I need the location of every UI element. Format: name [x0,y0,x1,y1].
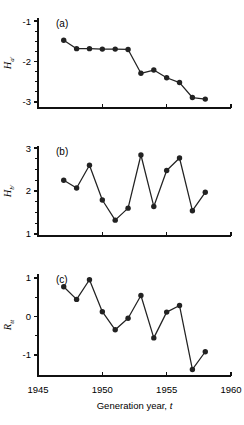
data-point [113,327,118,332]
x-tick-label: 1960 [220,384,241,395]
data-point [177,155,182,160]
x-axis-title-text: Generation year, [97,400,170,411]
data-point [164,168,169,173]
chart-panel-c: 10-1(c)Rtt [0,264,244,389]
y-tick-label: -1 [23,16,31,27]
data-point [203,96,208,101]
panel-label-b: (b) [56,146,68,157]
data-point [151,67,156,72]
data-point [190,208,195,213]
figure-panel-group: -1-2-3(a)Ha' 321(b)Hb' 10-1(c)Rtt 194519… [0,0,244,425]
panel-b-axis-lines [38,146,231,236]
y-axis-label-subscript: b' [8,184,16,190]
y-tick-label: 0 [26,311,31,322]
data-point [151,204,156,209]
x-axis-title: Generation year, t [97,400,173,411]
panel-label-c: (c) [56,274,68,285]
data-point [177,303,182,308]
data-point [138,293,143,298]
data-point [87,163,92,168]
data-point [125,47,130,52]
data-point [74,46,79,51]
y-axis-label-subscript: tt [8,319,16,324]
data-point [87,46,92,51]
y-axis-label-group-b: Hb' [2,184,16,198]
data-point [113,217,118,222]
y-axis-label-b: Hb' [2,184,16,198]
data-point [151,335,156,340]
x-axis-labels: 1945195019551960Generation year, t [0,382,244,425]
data-point [125,205,130,210]
x-tick-label: 1955 [156,384,177,395]
data-point [190,95,195,100]
data-point [113,46,118,51]
data-point [87,277,92,282]
y-tick-label: -2 [23,56,31,67]
x-axis-title-variable: t [170,400,173,411]
chart-panel-b: 321(b)Hb' [0,136,244,248]
y-tick-label: -1 [23,349,31,360]
panel-c-plot: 10-1(c)Rtt [0,264,244,389]
data-point [61,38,66,43]
data-point [100,309,105,314]
data-point [138,71,143,76]
data-point [61,178,66,183]
panel-label-a: (a) [56,18,68,29]
panel-c-series-line [64,280,206,370]
data-point [164,309,169,314]
chart-panel-a: -1-2-3(a)Ha' [0,8,244,120]
y-tick-label: -3 [23,96,31,107]
y-tick-label: 1 [26,272,31,283]
y-axis-label-subscript: a' [8,56,16,62]
panel-a-plot: -1-2-3(a)Ha' [0,8,244,120]
data-point [190,367,195,372]
panel-a-series-line [64,40,206,99]
y-tick-label: 1 [26,228,31,239]
y-axis-label-c: Rtt [2,319,16,331]
y-axis-label-a: Ha' [2,56,16,70]
x-tick-label: 1950 [92,384,113,395]
panel-b-plot: 321(b)Hb' [0,136,244,248]
data-point [74,297,79,302]
data-point [100,197,105,202]
y-axis-label-group-a: Ha' [2,56,16,70]
x-axis-block: 1945195019551960Generation year, t [0,382,244,425]
y-tick-label: 3 [26,143,31,154]
data-point [100,46,105,51]
data-point [125,316,130,321]
data-point [74,185,79,190]
data-point [138,152,143,157]
panel-b-series-line [64,155,206,220]
y-axis-label-group-c: Rtt [2,319,16,331]
y-tick-label: 2 [26,185,31,196]
panel-a-axis-lines [38,18,231,108]
x-tick-label: 1945 [27,384,48,395]
data-point [203,190,208,195]
data-point [177,80,182,85]
data-point [164,75,169,80]
data-point [203,349,208,354]
